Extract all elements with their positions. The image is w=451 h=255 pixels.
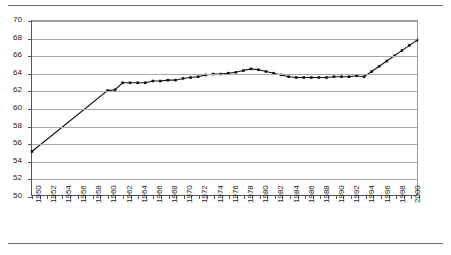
gridline-y bbox=[32, 39, 417, 40]
y-axis-label: 70 bbox=[0, 16, 22, 24]
line-series bbox=[32, 21, 417, 195]
data-point-marker bbox=[363, 75, 366, 78]
y-axis-label: 50 bbox=[0, 192, 22, 200]
y-axis-label: 64 bbox=[0, 69, 22, 77]
gridline-y bbox=[32, 144, 417, 145]
x-axis-label: 1972 bbox=[201, 185, 209, 203]
data-point-marker bbox=[159, 80, 162, 83]
data-point-marker bbox=[378, 65, 381, 68]
x-axis-label: 1986 bbox=[308, 185, 316, 203]
y-axis-tick bbox=[28, 56, 32, 57]
y-axis-label: 56 bbox=[0, 139, 22, 147]
y-axis-tick bbox=[28, 179, 32, 180]
data-point-marker bbox=[355, 75, 358, 78]
gridline-y bbox=[32, 109, 417, 110]
x-axis-label: 1958 bbox=[95, 185, 103, 203]
gridline-y bbox=[32, 162, 417, 163]
data-point-marker bbox=[333, 75, 336, 78]
x-axis-label: 1956 bbox=[80, 185, 88, 203]
x-axis-label: 1976 bbox=[232, 185, 240, 203]
y-axis-tick bbox=[28, 162, 32, 163]
y-axis-tick bbox=[28, 21, 32, 22]
data-point-marker bbox=[167, 79, 170, 82]
data-point-marker bbox=[318, 76, 321, 79]
x-axis-label: 1990 bbox=[338, 185, 346, 203]
x-axis-label: 1964 bbox=[141, 185, 149, 203]
gridline-y bbox=[32, 179, 417, 180]
x-axis-label: 1970 bbox=[186, 185, 194, 203]
y-axis-label: 62 bbox=[0, 86, 22, 94]
x-axis-label: 1954 bbox=[65, 185, 73, 203]
y-axis-tick bbox=[28, 127, 32, 128]
data-point-marker bbox=[189, 76, 192, 79]
x-axis-label: 1978 bbox=[247, 185, 255, 203]
data-point-marker bbox=[182, 77, 185, 80]
y-axis-label: 52 bbox=[0, 174, 22, 182]
y-axis-label: 66 bbox=[0, 51, 22, 59]
data-point-marker bbox=[386, 60, 389, 63]
y-axis-label: 60 bbox=[0, 104, 22, 112]
y-axis-tick bbox=[28, 109, 32, 110]
x-axis-label: 1984 bbox=[293, 185, 301, 203]
data-point-marker bbox=[408, 44, 411, 47]
data-point-marker bbox=[242, 69, 245, 72]
x-axis-label: 1994 bbox=[368, 185, 376, 203]
x-axis-label: 1982 bbox=[277, 185, 285, 203]
x-axis-label: 1988 bbox=[323, 185, 331, 203]
data-point-marker bbox=[197, 75, 200, 78]
data-point-marker bbox=[325, 76, 328, 79]
y-axis-tick bbox=[28, 39, 32, 40]
gridline-y bbox=[32, 127, 417, 128]
data-point-marker bbox=[174, 79, 177, 82]
y-axis-tick bbox=[28, 144, 32, 145]
x-axis-label: 1960 bbox=[110, 185, 118, 203]
data-point-marker bbox=[348, 75, 351, 78]
data-point-marker bbox=[144, 81, 147, 84]
x-axis-label: 1966 bbox=[156, 185, 164, 203]
x-axis-tick bbox=[381, 195, 382, 199]
data-point-marker bbox=[265, 70, 268, 73]
data-point-marker bbox=[401, 49, 404, 52]
gridline-y bbox=[32, 91, 417, 92]
data-point-marker bbox=[295, 76, 298, 79]
data-point-marker bbox=[136, 81, 139, 84]
x-axis-label: 1996 bbox=[384, 185, 392, 203]
x-axis-label: 1952 bbox=[50, 185, 58, 203]
data-point-marker bbox=[129, 81, 132, 84]
y-axis-label: 54 bbox=[0, 157, 22, 165]
x-axis-label: 1980 bbox=[262, 185, 270, 203]
gridline-y bbox=[32, 74, 417, 75]
bottom-divider-rule bbox=[8, 243, 443, 244]
data-point-marker bbox=[310, 76, 313, 79]
x-axis-label: 1992 bbox=[353, 185, 361, 203]
top-divider-rule bbox=[8, 5, 443, 6]
data-point-marker bbox=[287, 75, 290, 78]
y-axis-label: 68 bbox=[0, 34, 22, 42]
x-axis-label: 2000 bbox=[414, 185, 422, 203]
y-axis-tick bbox=[28, 74, 32, 75]
x-axis-tick bbox=[123, 195, 124, 199]
x-axis-label: 1968 bbox=[171, 185, 179, 203]
data-point-marker bbox=[121, 81, 124, 84]
data-point-marker bbox=[31, 150, 34, 153]
data-point-marker bbox=[340, 75, 343, 78]
x-axis-tick bbox=[32, 195, 33, 199]
chart-container: 5052545658606264666870 19501952195419561… bbox=[0, 0, 451, 255]
x-axis-label: 1998 bbox=[399, 185, 407, 203]
y-axis-tick bbox=[28, 91, 32, 92]
gridline-y bbox=[32, 56, 417, 57]
data-point-marker bbox=[250, 68, 253, 71]
plot-area bbox=[31, 20, 418, 196]
data-point-marker bbox=[257, 68, 260, 71]
x-axis-tick bbox=[214, 195, 215, 199]
gridline-y bbox=[32, 21, 417, 22]
data-point-marker bbox=[302, 76, 305, 79]
data-point-marker bbox=[151, 80, 154, 83]
y-axis-label: 58 bbox=[0, 122, 22, 130]
data-point-marker bbox=[370, 70, 373, 73]
x-axis-label: 1950 bbox=[35, 185, 43, 203]
x-axis-label: 1962 bbox=[126, 185, 134, 203]
x-axis-tick bbox=[290, 195, 291, 199]
x-axis-label: 1974 bbox=[217, 185, 225, 203]
